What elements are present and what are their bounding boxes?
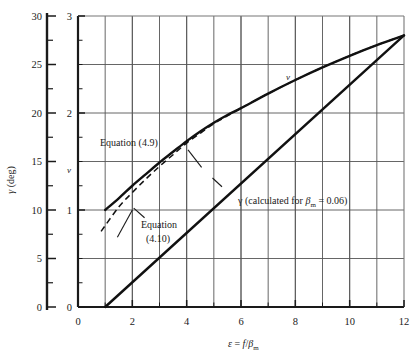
- left-axis-tick-label: 20: [32, 108, 43, 119]
- x-axis-tick-label: 6: [238, 316, 243, 327]
- left-axis-tick-label: 0: [37, 302, 42, 313]
- left-axis-tick-label: 5: [37, 253, 42, 264]
- chart-canvas: 051015202530 0123 024681012 Equation (4.…: [0, 0, 414, 359]
- annotation-equation-410-line2: (4.10): [146, 233, 170, 245]
- x-axis-tick-label: 4: [184, 316, 190, 327]
- x-axis-tick-label: 10: [344, 316, 355, 327]
- left-axis-tick-label: 10: [32, 205, 43, 216]
- inner-axis-tick-label: 3: [67, 11, 72, 22]
- x-axis-tick-label: 0: [75, 316, 80, 327]
- left-axis-tick-label: 30: [32, 11, 43, 22]
- y-axis-left-title: γ (deg): [5, 166, 17, 194]
- x-axis-tick-label: 12: [399, 316, 410, 327]
- annotation-equation-410-line1: Equation: [141, 219, 177, 230]
- inner-axis-tick-label: 0: [67, 302, 72, 313]
- annotation-equation-49: Equation (4.9): [100, 137, 158, 149]
- x-axis-tick-label: 8: [293, 316, 298, 327]
- curve-label-v: v: [286, 72, 290, 82]
- inner-axis-tick-label: 2: [67, 108, 72, 119]
- left-axis-tick-label: 25: [32, 59, 43, 70]
- x-axis-tick-label: 2: [130, 316, 135, 327]
- figure-container: 051015202530 0123 024681012 Equation (4.…: [0, 0, 414, 359]
- y-axis-inner-title: v: [67, 165, 71, 175]
- inner-axis-tick-label: 1: [67, 205, 72, 216]
- left-axis-tick-label: 15: [32, 156, 43, 167]
